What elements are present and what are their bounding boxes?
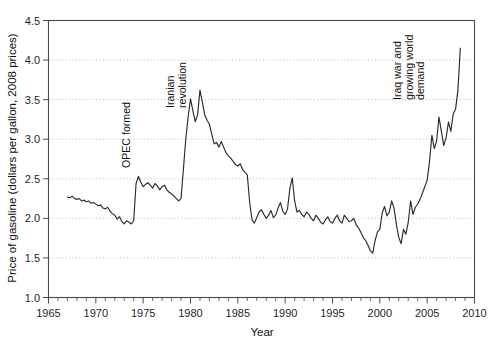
y-axis-ticks [43,21,49,298]
annotation-iranian-revolution-line-0: Iranian [164,76,176,108]
x-tick-label-1985: 1985 [226,307,250,319]
x-axis-ticks [49,298,475,304]
x-tick-label-1975: 1975 [131,307,155,319]
x-tick-label-1990: 1990 [273,307,297,319]
annotation-iraq-war-growing-world-demand-line-1: growing world [403,35,415,100]
y-tick-label-4.5: 4.5 [25,15,40,27]
x-tick-label-1965: 1965 [36,307,60,319]
y-axis-title: Price of gasoline (dollars per gallon, 2… [6,33,18,282]
y-tick-label-1.5: 1.5 [25,252,40,264]
x-tick-label-2010: 2010 [462,307,486,319]
y-axis-tick-labels: 1.01.52.02.53.03.54.04.5 [25,15,40,304]
chart-canvas: 1.01.52.02.53.03.54.04.5 196519701975198… [0,0,498,344]
annotation-iraq-war-growing-world-demand-line-2: demand [414,62,426,100]
chart-annotations: OPEC formedIranianrevolutionIraq war and… [120,35,426,168]
gasoline-price-chart-figure: 1.01.52.02.53.03.54.04.5 196519701975198… [0,0,498,344]
y-tick-label-4: 4.0 [25,54,40,66]
x-axis-title: Year [250,326,273,338]
x-tick-label-1970: 1970 [84,307,108,319]
y-tick-label-3.5: 3.5 [25,94,40,106]
x-tick-label-2000: 2000 [368,307,392,319]
x-axis-tick-labels: 1965197019751980198519901995200020052010 [36,307,486,319]
x-tick-label-2005: 2005 [415,307,439,319]
annotation-iranian-revolution-line-1: revolution [176,62,188,108]
y-tick-label-3: 3.0 [25,133,40,145]
x-tick-label-1980: 1980 [178,307,202,319]
y-tick-label-2: 2.0 [25,212,40,224]
y-tick-label-2.5: 2.5 [25,173,40,185]
x-tick-label-1995: 1995 [320,307,344,319]
annotation-iraq-war-growing-world-demand-line-0: Iraq war and [391,41,403,100]
y-tick-label-1: 1.0 [25,292,40,304]
annotation-opec-formed-line-0: OPEC formed [120,102,132,168]
